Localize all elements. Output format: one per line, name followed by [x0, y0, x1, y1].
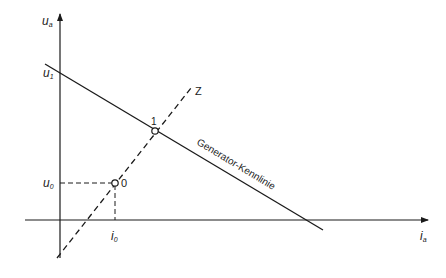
x-axis-label: ia	[420, 229, 427, 243]
operating-point-0	[112, 180, 118, 186]
u0-label: u0	[43, 176, 54, 190]
y-axis-label: ua	[42, 14, 53, 28]
operating-point-1	[152, 128, 158, 134]
generator-curve-label: Generator-Kennlinie	[195, 136, 278, 192]
z-line-label: Z	[195, 85, 202, 97]
point-1-label: 1	[151, 116, 157, 127]
generator-characteristic-line	[45, 64, 323, 230]
z-dashed-line	[57, 88, 191, 258]
i0-label: i0	[111, 229, 118, 243]
diagram-canvas: ua ia u1 u0 i0 0 1 Z Generator-Kennlinie	[0, 0, 446, 278]
point-0-label: 0	[121, 177, 127, 189]
